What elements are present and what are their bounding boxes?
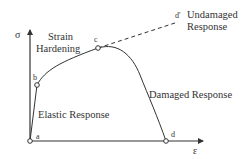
point-a-label: a [36,132,40,141]
point-d-prime-label: d' [175,11,181,20]
undamaged-label-line1: Undamaged [187,9,238,20]
point-c-marker [96,46,101,51]
point-a-marker [28,139,33,144]
undamaged-dashed-line [98,22,178,48]
strain-hardening-label-line1: Strain [48,31,74,42]
point-b-label: b [33,73,37,82]
y-axis-label: σ [15,29,21,40]
elastic-response-label: Elastic Response [38,109,110,120]
point-d-label: d [171,130,175,139]
point-d-marker [164,139,169,144]
damaged-response-label: Damaged Response [149,89,232,100]
point-b-marker [35,83,40,88]
stress-strain-diagram: σ ε a b c d d' Strain Hardening Undamage… [0,0,250,159]
strain-hardening-label-line2: Hardening [36,43,81,54]
point-c-label: c [94,35,98,44]
undamaged-label-line2: Response [187,21,228,32]
x-axis-label: ε [193,145,197,156]
